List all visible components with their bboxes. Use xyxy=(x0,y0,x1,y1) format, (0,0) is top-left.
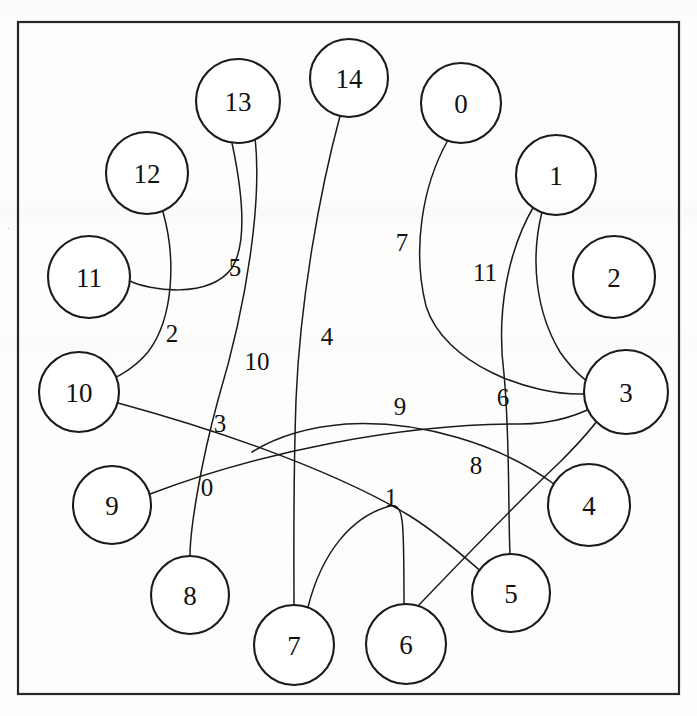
edge-10-5 xyxy=(118,403,489,578)
edge-label-2: 2 xyxy=(166,320,179,347)
node-5[interactable]: 5 xyxy=(472,554,550,632)
node-label-0: 0 xyxy=(454,89,468,119)
node-9[interactable]: 9 xyxy=(73,466,151,544)
edge-14-7 xyxy=(294,116,340,605)
edge-labels-layer: 01234567891011 xyxy=(166,229,510,511)
edge-1-5 xyxy=(502,206,534,554)
node-label-10: 10 xyxy=(66,378,93,408)
scan-speck xyxy=(622,479,624,481)
edge-label-6: 6 xyxy=(497,384,510,411)
diagram-frame xyxy=(18,22,679,694)
edge-label-1: 1 xyxy=(385,484,398,511)
node-label-11: 11 xyxy=(76,263,102,293)
edge-label-11: 11 xyxy=(473,259,497,286)
diagram-canvas: 01234567891011121314 01234567891011 xyxy=(0,0,697,716)
node-label-4: 4 xyxy=(582,491,596,521)
node-3[interactable]: 3 xyxy=(584,350,668,434)
node-label-5: 5 xyxy=(504,579,518,609)
graph-svg: 01234567891011121314 01234567891011 xyxy=(0,0,697,716)
node-11[interactable]: 11 xyxy=(48,236,130,318)
edge-label-5: 5 xyxy=(229,254,242,281)
edge-label-0: 0 xyxy=(201,474,214,501)
node-8[interactable]: 8 xyxy=(151,556,229,634)
edge-label-9: 9 xyxy=(394,393,407,420)
node-7[interactable]: 7 xyxy=(254,605,334,685)
node-0[interactable]: 0 xyxy=(421,63,501,143)
edge-label-3: 3 xyxy=(214,410,227,437)
edge-7-6 xyxy=(308,506,404,607)
node-label-9: 9 xyxy=(105,491,119,521)
node-12[interactable]: 12 xyxy=(106,132,188,214)
node-label-7: 7 xyxy=(287,631,301,661)
edge-label-10: 10 xyxy=(245,348,270,375)
node-label-8: 8 xyxy=(183,581,197,611)
node-13[interactable]: 13 xyxy=(196,59,280,143)
edge-label-8: 8 xyxy=(470,452,483,479)
node-label-6: 6 xyxy=(399,630,413,660)
node-label-3: 3 xyxy=(619,378,633,408)
node-label-14: 14 xyxy=(336,64,364,94)
node-2[interactable]: 2 xyxy=(573,236,655,318)
node-14[interactable]: 14 xyxy=(310,39,388,117)
node-label-1: 1 xyxy=(549,161,563,191)
node-label-13: 13 xyxy=(225,87,252,117)
node-6[interactable]: 6 xyxy=(366,604,446,684)
edge-label-7: 7 xyxy=(396,229,409,256)
node-10[interactable]: 10 xyxy=(39,352,119,432)
edge-label-4: 4 xyxy=(321,323,334,350)
node-label-12: 12 xyxy=(134,159,161,189)
node-4[interactable]: 4 xyxy=(548,464,630,546)
node-1[interactable]: 1 xyxy=(516,135,596,215)
node-label-2: 2 xyxy=(607,263,621,293)
nodes-layer: 01234567891011121314 xyxy=(39,39,668,685)
scan-speck xyxy=(8,228,9,229)
